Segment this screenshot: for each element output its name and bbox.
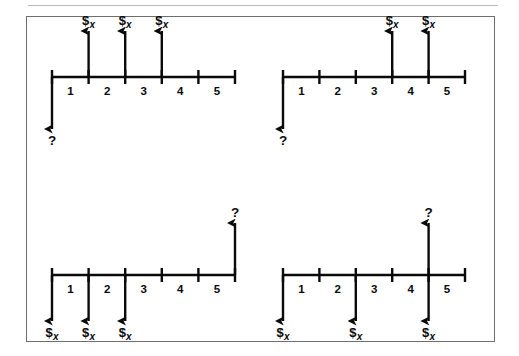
top-left-timeline-period-label-1: 1 <box>67 86 73 98</box>
bottom-left-timeline-period-label-5: 5 <box>214 284 220 296</box>
bottom-right-timeline-unknown-label-t4-up: ? <box>425 206 433 220</box>
bottom-right-timeline-period-label-5: 5 <box>444 284 450 296</box>
bottom-left-timeline-cashflow-label-t1-down: $x <box>82 326 95 342</box>
top-left-timeline-period-label-4: 4 <box>177 86 183 98</box>
top-left-timeline-cashflow-label-t1-up: $x <box>82 14 95 30</box>
bottom-left-timeline-period-label-4: 4 <box>177 284 183 296</box>
bottom-right-timeline-cashflow-label-t4-down: $x <box>422 326 435 342</box>
bottom-right-timeline-period-label-3: 3 <box>371 284 377 296</box>
bottom-right-timeline-period-label-2: 2 <box>335 284 341 296</box>
top-left-timeline-period-label-3: 3 <box>141 86 147 98</box>
top-left-timeline-period-label-2: 2 <box>104 86 110 98</box>
top-left-timeline-period-label-5: 5 <box>214 86 220 98</box>
top-left-timeline-cashflow-label-t2-up: $x <box>119 14 132 30</box>
top-right-timeline-cashflow-label-t4-up: $x <box>422 14 435 30</box>
top-right-timeline-unknown-label-t0-down: ? <box>279 134 287 148</box>
top-right-timeline-period-label-4: 4 <box>407 86 413 98</box>
top-left-timeline-cashflow-label-t3-up: $x <box>155 14 168 30</box>
top-divider-rule <box>28 5 498 6</box>
bottom-left-timeline-period-label-1: 1 <box>67 284 73 296</box>
top-right-timeline-cashflow-label-t3-up: $x <box>386 14 399 30</box>
figure-border-frame <box>26 16 495 342</box>
top-right-timeline-period-label-3: 3 <box>371 86 377 98</box>
top-left-timeline-unknown-label-t0-down: ? <box>48 134 56 148</box>
bottom-right-timeline-cashflow-label-t2-down: $x <box>349 326 362 342</box>
top-right-timeline-period-label-2: 2 <box>335 86 341 98</box>
cash-flow-diagram-figure: 12345?$x$x$x12345?$x$x12345$x$x$x?12345$… <box>0 0 519 356</box>
bottom-left-timeline-period-label-3: 3 <box>141 284 147 296</box>
top-right-timeline-period-label-5: 5 <box>444 86 450 98</box>
bottom-right-timeline-cashflow-label-t0-down: $x <box>277 326 290 342</box>
bottom-right-timeline-period-label-4: 4 <box>407 284 413 296</box>
bottom-right-timeline-period-label-1: 1 <box>298 284 304 296</box>
bottom-left-timeline-cashflow-label-t0-down: $x <box>46 326 59 342</box>
bottom-left-timeline-cashflow-label-t2-down: $x <box>119 326 132 342</box>
bottom-left-timeline-unknown-label-t5-up: ? <box>231 206 239 220</box>
bottom-left-timeline-period-label-2: 2 <box>104 284 110 296</box>
top-right-timeline-period-label-1: 1 <box>298 86 304 98</box>
